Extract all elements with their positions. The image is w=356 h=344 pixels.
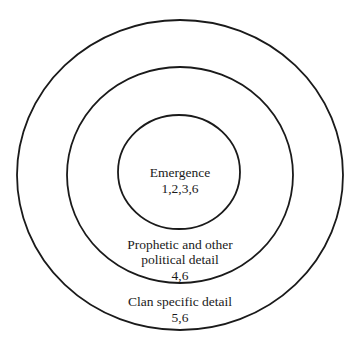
middle-title-line2: political detail [141, 252, 219, 267]
concentric-diagram: Emergence 1,2,3,6 Prophetic and other po… [0, 0, 356, 344]
outer-title: Clan specific detail [128, 294, 232, 309]
middle-numbers: 4,6 [172, 268, 189, 283]
outer-numbers: 5,6 [172, 310, 189, 325]
middle-title-line1: Prophetic and other [127, 237, 233, 252]
inner-title: Emergence [150, 165, 210, 180]
inner-numbers: 1,2,3,6 [161, 181, 198, 196]
